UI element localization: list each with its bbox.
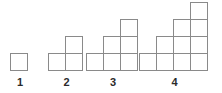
staircase-shape [49, 37, 83, 71]
pattern-square [190, 2, 208, 20]
staircase-shape [11, 54, 28, 71]
pattern-square [173, 53, 191, 71]
figure-1 [11, 54, 28, 71]
pattern-square [190, 53, 208, 71]
figure-label-1: 1 [11, 77, 29, 88]
pattern-square [65, 36, 83, 54]
pattern-square [65, 53, 83, 71]
pattern-square [48, 53, 66, 71]
pattern-square [190, 36, 208, 54]
staircase-shape [140, 3, 208, 71]
pattern-square [120, 36, 138, 54]
pattern-square [120, 19, 138, 37]
figure-label-3: 3 [87, 77, 139, 88]
pattern-square [173, 19, 191, 37]
pattern-square [190, 19, 208, 37]
pattern-square [173, 36, 191, 54]
staircase-shape [87, 20, 138, 71]
pattern-square [103, 36, 121, 54]
pattern-square [86, 53, 104, 71]
figure-3 [87, 20, 138, 71]
pattern-square [156, 36, 174, 54]
pattern-square [103, 53, 121, 71]
figure-2 [49, 37, 83, 71]
pattern-square [120, 53, 138, 71]
figure-4 [140, 3, 208, 71]
figure-label-4: 4 [140, 77, 209, 88]
pattern-square [156, 53, 174, 71]
pattern-sequence-diagram: 1234 [0, 0, 222, 93]
pattern-square [10, 53, 28, 71]
figure-label-2: 2 [49, 77, 84, 88]
pattern-square [139, 53, 157, 71]
